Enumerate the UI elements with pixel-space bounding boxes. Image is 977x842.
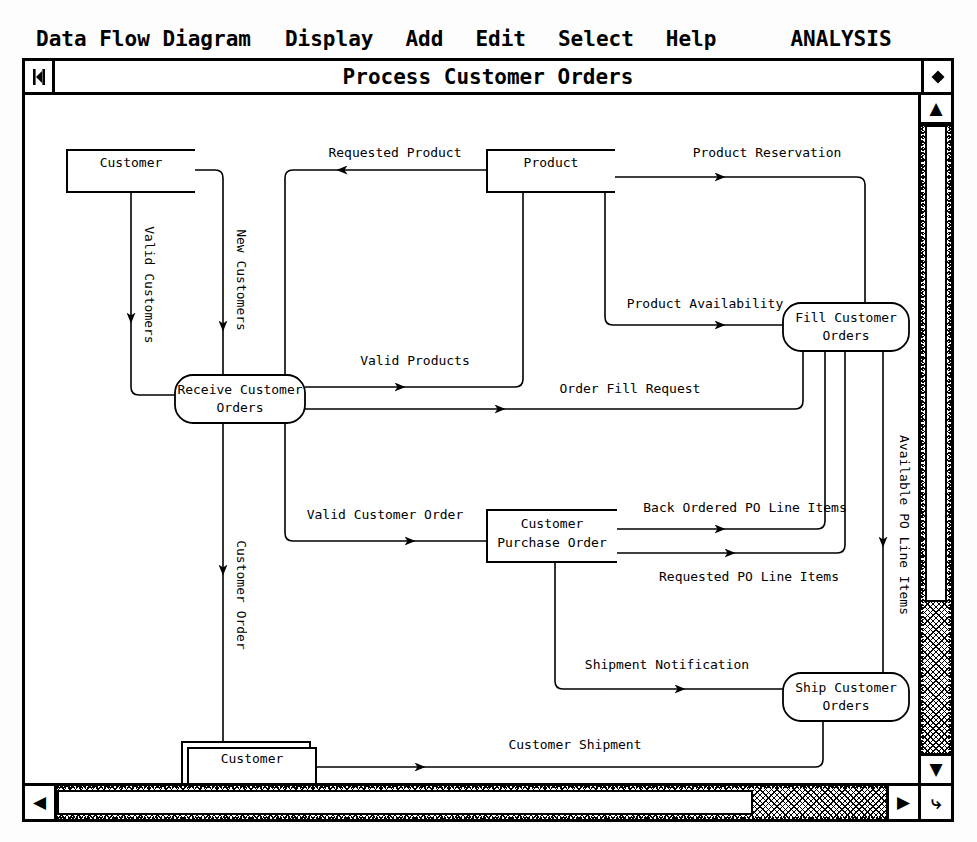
process-receive-label-line1: Receive Customer	[177, 382, 302, 397]
flow-label-valid-customers: Valid Customers	[142, 226, 157, 343]
entity-customer-bottom-label: Customer	[221, 751, 284, 766]
flow-label-valid-customer-order: Valid Customer Order	[307, 507, 464, 522]
store-customer-purchase-order[interactable]: Customer Purchase Order	[487, 510, 617, 562]
flow-order-fill-request-seg	[505, 351, 803, 409]
menu-edit[interactable]: Edit	[475, 27, 526, 51]
horizontal-scroll-thumb[interactable]	[57, 790, 753, 815]
flow-requested-po-seg	[735, 351, 845, 553]
scroll-left-button[interactable]: ◀	[25, 786, 57, 819]
flow-requested-product-seg1	[285, 170, 337, 375]
horizontal-scrollbar[interactable]: ◀ ▶	[25, 783, 918, 819]
diagram-canvas[interactable]: Customer Product Customer Purchase Order	[25, 95, 918, 783]
window-resize-grip[interactable]: ⤷	[918, 783, 951, 819]
window-menu-icon[interactable]	[25, 61, 55, 92]
process-fill-label-line2: Orders	[823, 328, 870, 343]
process-ship-customer-orders[interactable]: Ship Customer Orders	[783, 673, 909, 721]
dfd-svg: Customer Product Customer Purchase Order	[25, 95, 918, 783]
triangle-right-icon: ▶	[897, 794, 910, 811]
vertical-scroll-thumb[interactable]	[925, 125, 947, 602]
window-maximize-icon[interactable]	[921, 61, 951, 92]
process-fill-customer-orders[interactable]: Fill Customer Orders	[783, 303, 909, 351]
window-title-bar: Process Customer Orders	[25, 61, 951, 95]
window-title: Process Customer Orders	[55, 61, 921, 92]
menu-display[interactable]: Display	[285, 27, 374, 51]
store-product[interactable]: Product	[487, 150, 615, 192]
mode-indicator: ANALYSIS	[790, 27, 891, 51]
store-cpo-label-line2: Purchase Order	[497, 535, 607, 550]
menu-select[interactable]: Select	[558, 27, 634, 51]
process-receive-label-line2: Orders	[217, 400, 264, 415]
store-customer-top[interactable]: Customer	[67, 150, 195, 192]
store-product-label: Product	[524, 155, 579, 170]
flow-label-order-fill-request: Order Fill Request	[560, 381, 701, 396]
flow-label-new-customers: New Customers	[234, 229, 249, 331]
entity-customer-bottom[interactable]: Customer	[182, 742, 316, 783]
flow-label-shipment-notification: Shipment Notification	[585, 657, 749, 672]
triangle-up-icon: ▲	[929, 100, 942, 117]
diagram-window: Process Customer Orders	[22, 58, 954, 822]
resize-corner-icon: ⤷	[931, 794, 941, 812]
store-customer-top-label: Customer	[100, 155, 163, 170]
flow-label-customer-order: Customer Order	[234, 540, 249, 650]
flow-label-product-availability: Product Availability	[627, 296, 784, 311]
process-fill-label-line1: Fill Customer	[795, 310, 897, 325]
application-window: Data Flow Diagram Display Add Edit Selec…	[0, 0, 977, 842]
flow-label-product-reservation: Product Reservation	[693, 145, 842, 160]
store-cpo-label-line1: Customer	[521, 516, 584, 531]
menu-help[interactable]: Help	[666, 27, 717, 51]
vertical-scrollbar[interactable]: ▲ ▼	[918, 95, 951, 783]
flow-valid-customer-order-seg1	[285, 423, 325, 541]
flow-new-customers-seg1	[195, 170, 223, 275]
flow-product-reservation-seg	[725, 177, 865, 303]
flow-label-requested-product: Requested Product	[328, 145, 461, 160]
horizontal-scroll-track[interactable]	[57, 786, 886, 819]
process-ship-label-line1: Ship Customer	[795, 680, 897, 695]
menu-add[interactable]: Add	[405, 27, 443, 51]
flow-label-available-po-line-items: Available PO Line Items	[897, 435, 912, 615]
flow-label-back-ordered-po-line-items: Back Ordered PO Line Items	[643, 500, 847, 515]
process-receive-customer-orders[interactable]: Receive Customer Orders	[175, 375, 305, 423]
scroll-down-button[interactable]: ▼	[921, 753, 951, 783]
flow-label-requested-po-line-items: Requested PO Line Items	[659, 569, 839, 584]
flow-label-customer-shipment: Customer Shipment	[508, 737, 641, 752]
vertical-scroll-track[interactable]	[921, 125, 951, 753]
triangle-down-icon: ▼	[929, 761, 942, 778]
menu-data-flow-diagram[interactable]: Data Flow Diagram	[36, 27, 251, 51]
triangle-left-icon: ◀	[33, 794, 46, 811]
process-ship-label-line2: Orders	[823, 698, 870, 713]
menu-bar: Data Flow Diagram Display Add Edit Selec…	[0, 22, 977, 56]
flow-label-valid-products: Valid Products	[360, 353, 470, 368]
scroll-up-button[interactable]: ▲	[921, 95, 951, 125]
scroll-right-button[interactable]: ▶	[886, 786, 918, 819]
